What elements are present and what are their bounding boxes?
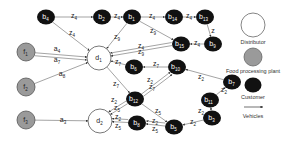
legend-label-customer: Customer [241, 94, 265, 100]
edge-label: z4 [194, 39, 201, 48]
edge-label: z9 [114, 33, 121, 42]
edge-label: a8 [59, 70, 66, 79]
edge-label: z4 [186, 12, 193, 21]
edge-label: z2 [198, 107, 205, 116]
edge-b4-d1 [53, 22, 90, 51]
distributor-node-d1: d1 [87, 46, 111, 70]
customer-node-b15: b15 [172, 37, 190, 52]
legend-label-distributor: Distributor [240, 39, 265, 45]
distributor-node-d2: d2 [88, 109, 112, 133]
legend-customer-icon [245, 78, 262, 93]
customer-node-b5: b5 [165, 120, 183, 135]
customer-node-b9: b9 [204, 37, 222, 52]
edge-labels-layer: a4a7a8a3z4z4z4z4zz4z9z4z9z4z9z7z7z7z2z2z… [54, 12, 228, 134]
edge-label: z5 [115, 122, 122, 131]
customer-node-b13: b13 [196, 10, 214, 25]
customer-node-b14: b14 [165, 10, 183, 25]
plant-node-f2: f2 [17, 78, 35, 96]
edge-label: z4 [71, 12, 78, 21]
edge-label: z2 [190, 118, 197, 127]
customer-node-b8: b8 [128, 116, 146, 131]
customer-node-b2: b2 [93, 10, 111, 25]
legend [241, 13, 265, 107]
legend-distributor-icon [241, 13, 265, 37]
edge-b7-b10 [186, 69, 224, 79]
edge-b12-b10 [142, 72, 171, 94]
edge-label: z [211, 27, 215, 34]
legend-plant-icon [244, 48, 262, 66]
edge-label: z4 [114, 12, 121, 21]
customer-node-b11: b11 [201, 93, 219, 108]
customer-node-b1: b1 [123, 10, 141, 25]
customer-node-b3: b3 [203, 111, 221, 126]
edge-label: z5 [152, 125, 159, 134]
edge-label: a7 [54, 56, 61, 65]
edge-label: a3 [60, 116, 67, 125]
edge-label: a4 [54, 45, 61, 54]
customer-node-b12: b12 [126, 92, 144, 107]
edge-label: z9 [150, 27, 157, 36]
customer-node-b4: b4 [37, 10, 55, 25]
customer-node-b10: b10 [168, 60, 186, 75]
edge-label: z2 [147, 76, 154, 85]
edge-label: z7 [113, 80, 120, 89]
plant-node-f1: f1 [17, 43, 35, 61]
customer-node-b6: b6 [125, 60, 143, 75]
edge-label: z2 [115, 113, 122, 122]
edge-label: z4 [149, 12, 156, 21]
edge-d1-b12 [107, 67, 130, 93]
legend-label-vehicles: Vehicles [243, 113, 264, 119]
nodes-layer: b4b2b1b14b13b15b9d1f1f2f3b6b10b7b12b11b3… [17, 10, 241, 135]
legend-label-plant: Food processing plant [226, 68, 280, 74]
plant-node-f3: f3 [17, 111, 35, 129]
edge-label: z4 [69, 29, 76, 38]
customer-node-b7: b7 [223, 75, 241, 90]
edge-label: z7 [115, 58, 122, 67]
edge-b1-b15 [140, 21, 174, 40]
